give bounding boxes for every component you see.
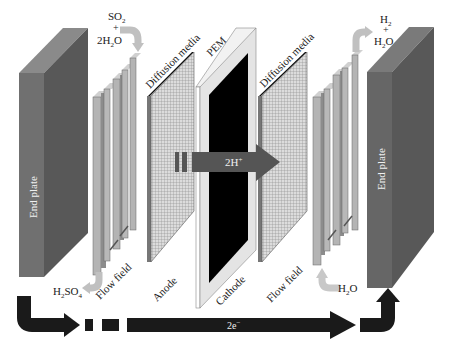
right-end-plate-label: End plate [375,148,387,190]
anode-inlet-arrow [120,30,144,52]
cathode-outlet-label-line2: + [383,24,389,35]
right-end-plate: End plate [367,27,434,288]
anode-outlet-label: H2SO4 [53,285,83,300]
anode-label: Anode [150,274,179,303]
right-flow-field-label: Flow field [264,263,305,304]
electrolyzer-diagram: End plate [0,0,453,358]
cathode-inlet-arrow [316,268,340,288]
right-flow-field [313,50,363,265]
cathode-outlet-arrow [356,26,373,52]
left-end-plate-label: End plate [27,176,39,218]
left-flow-field [93,53,141,275]
anode-inlet-label-line2: + [113,22,119,33]
anode-inlet-label-line3: 2H2O [97,34,122,49]
left-end-plate: End plate [19,28,88,277]
cathode-inlet-label: H2O [338,282,357,297]
